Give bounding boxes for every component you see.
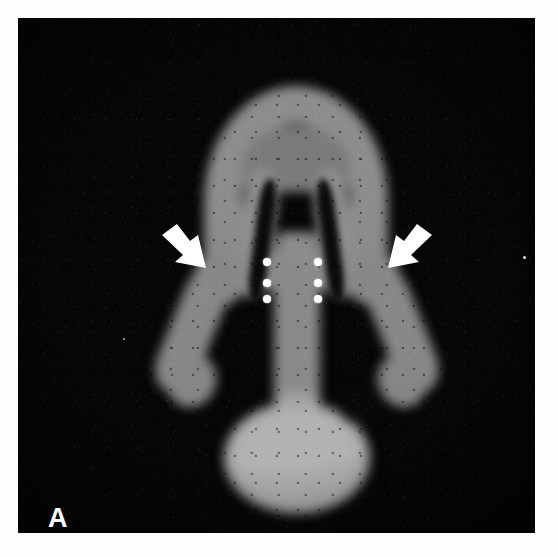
marker-dot [314,258,322,266]
figure-panel: A [0,0,558,557]
left-arrow-icon [160,224,218,270]
film-speck-left [123,338,125,340]
marker-dot [314,295,322,303]
marker-dot [263,295,271,303]
marker-dot [263,279,271,287]
panel-label: A [48,505,68,532]
film-speck-right [523,256,526,259]
marker-dot [314,279,322,287]
right-arrow-icon [376,224,434,270]
scintigraphy-scan-field: A [18,18,535,533]
photopenic-layer [18,18,535,533]
marker-dot [263,258,271,266]
